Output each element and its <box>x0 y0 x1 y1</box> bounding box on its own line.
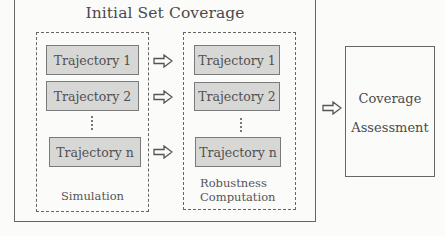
simulation-trajectory-n: Trajectory n <box>49 137 141 167</box>
robustness-ellipsis-icon <box>240 118 242 132</box>
simulation-ellipsis-icon <box>91 116 93 130</box>
coverage-assessment-label: Coverage Assessment <box>345 84 435 142</box>
hollow-right-arrow-icon <box>153 145 173 159</box>
hollow-right-arrow-icon <box>322 101 342 115</box>
simulation-trajectory-2: Trajectory 2 <box>46 81 139 111</box>
simulation-trajectory-1: Trajectory 1 <box>46 45 139 75</box>
robustness-trajectory-2: Trajectory 2 <box>194 82 280 111</box>
coverage-assessment-line1: Coverage <box>345 84 435 113</box>
initial-set-coverage-title: Initial Set Coverage <box>14 4 316 22</box>
coverage-assessment-line2: Assessment <box>345 113 435 142</box>
robustness-label-line2: Computation <box>200 190 276 204</box>
robustness-label-line1: Robustness <box>200 176 276 190</box>
hollow-right-arrow-icon <box>153 54 173 68</box>
hollow-right-arrow-icon <box>153 90 173 104</box>
robustness-trajectory-1: Trajectory 1 <box>194 45 280 75</box>
robustness-computation-label: Robustness Computation <box>200 176 276 204</box>
robustness-trajectory-n: Trajectory n <box>195 137 281 167</box>
simulation-label: Simulation <box>36 189 149 203</box>
